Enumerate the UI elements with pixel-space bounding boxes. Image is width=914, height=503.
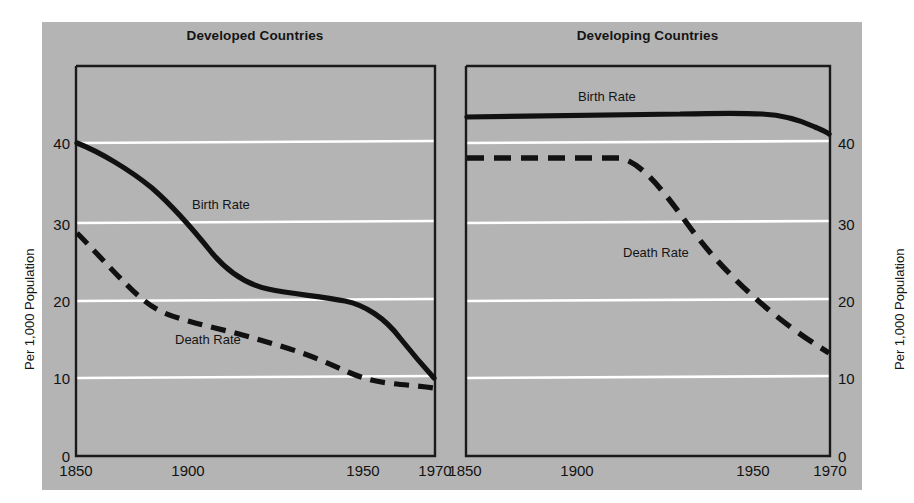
- x-tick-right-1900: 1900: [547, 462, 607, 479]
- x-tick-left-1900: 1900: [158, 462, 218, 479]
- x-tick-right-1850: 1850: [435, 462, 495, 479]
- y-tick-right-40: 40: [838, 135, 868, 152]
- y-tick-left-20: 20: [40, 293, 70, 310]
- x-tick-left-1850: 1850: [46, 462, 106, 479]
- y-tick-left-30: 30: [40, 216, 70, 233]
- x-tick-left-1950: 1950: [333, 462, 393, 479]
- x-tick-right-1970: 1970: [800, 462, 860, 479]
- curve-label-birth-rate-developed: Birth Rate: [192, 197, 250, 212]
- curve-label-death-rate-developing: Death Rate: [623, 245, 689, 260]
- y-axis-label-right: Per 1,000 Population: [892, 249, 907, 370]
- x-tick-right-1950: 1950: [723, 462, 783, 479]
- curve-label-birth-rate-developing: Birth Rate: [578, 89, 636, 104]
- y-axis-label-left: Per 1,000 Population: [22, 249, 37, 370]
- y-tick-left-40: 40: [40, 135, 70, 152]
- y-tick-left-10: 10: [40, 370, 70, 387]
- chart-background-panel: [42, 22, 862, 490]
- y-tick-right-10: 10: [838, 370, 868, 387]
- panel-title-developing: Developing Countries: [465, 28, 830, 43]
- curve-label-death-rate-developed: Death Rate: [175, 332, 241, 347]
- y-tick-right-20: 20: [838, 293, 868, 310]
- panel-title-developed: Developed Countries: [75, 28, 435, 43]
- y-tick-right-30: 30: [838, 216, 868, 233]
- figure-root: Developed Countries Developing Countries…: [0, 0, 914, 503]
